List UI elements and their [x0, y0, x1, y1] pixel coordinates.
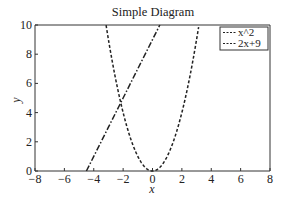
x-tick-label: −2	[117, 172, 130, 186]
y-tick-label: 2	[26, 135, 32, 149]
x-tick-label: 6	[238, 172, 244, 186]
y-tick-label: 6	[26, 76, 32, 90]
y-tick-label: 0	[26, 164, 32, 178]
x-tick-label: −6	[58, 172, 71, 186]
series-layer	[86, 25, 198, 171]
series-x-2	[106, 25, 199, 171]
series-2x-9	[86, 25, 159, 171]
x-axis-label: x	[148, 182, 155, 196]
x-tick-label: −4	[87, 172, 100, 186]
chart: Simple Diagram −8−6−4−202468 0246810 x y…	[0, 0, 283, 207]
legend: x^22x+9	[220, 26, 268, 50]
x-tick-label: 2	[179, 172, 185, 186]
y-axis-label: y	[9, 97, 23, 104]
y-tick-label: 10	[20, 18, 32, 32]
chart-title: Simple Diagram	[112, 5, 195, 19]
legend-label: 2x+9	[238, 37, 261, 49]
x-tick-label: 4	[208, 172, 214, 186]
y-tick-label: 8	[26, 47, 32, 61]
x-tick-label: 8	[267, 172, 273, 186]
y-tick-label: 4	[26, 106, 32, 120]
